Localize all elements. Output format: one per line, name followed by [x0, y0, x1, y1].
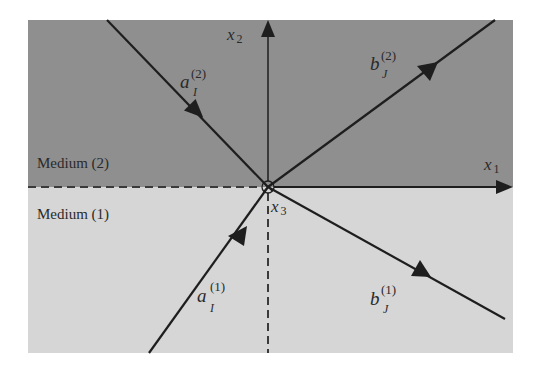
medium-1-label: Medium (1): [37, 206, 109, 223]
svg-text:(1): (1): [381, 282, 396, 297]
svg-text:(2): (2): [191, 66, 206, 81]
svg-text:b: b: [370, 53, 380, 74]
svg-text:J: J: [383, 302, 389, 316]
svg-text:a: a: [180, 71, 190, 92]
svg-text:a: a: [197, 285, 207, 306]
svg-text:(2): (2): [381, 48, 396, 63]
medium-2-label: Medium (2): [37, 155, 109, 172]
svg-text:b: b: [370, 288, 380, 309]
diagram-canvas: Medium (2) Medium (1) x2 x1 x3 a I (2) b…: [0, 0, 537, 371]
svg-text:J: J: [382, 67, 388, 81]
svg-text:(1): (1): [210, 279, 225, 294]
